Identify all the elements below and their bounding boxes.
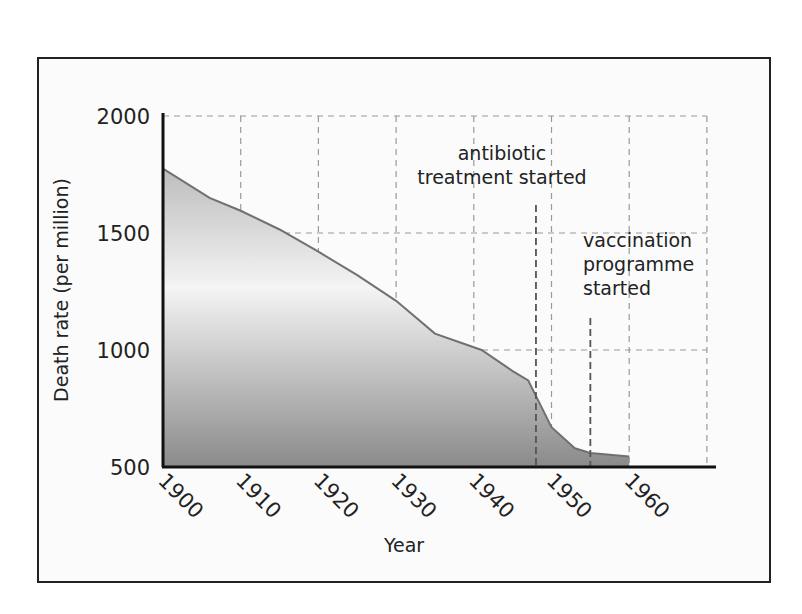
annotation-labels: antibiotictreatment startedvaccinationpr…: [417, 142, 694, 299]
x-tick-labels: 1900191019201930194019501960: [153, 469, 674, 524]
y-axis-title: Death rate (per million): [50, 178, 72, 402]
x-axis-title: Year: [383, 534, 424, 556]
x-tick-label: 1920: [309, 469, 364, 524]
x-tick-label: 1950: [542, 469, 597, 524]
y-tick-label: 2000: [97, 105, 150, 129]
annotation-label: antibiotic: [458, 142, 547, 164]
death-rate-chart: 200015001000500 190019101920193019401950…: [0, 0, 802, 614]
annotation-label: started: [583, 277, 651, 299]
x-tick-label: 1940: [464, 469, 519, 524]
annotation-label: programme: [583, 253, 694, 275]
y-tick-label: 1500: [97, 222, 150, 246]
annotation-label: vaccination: [583, 229, 692, 251]
death-rate-area: [163, 169, 629, 467]
y-tick-label: 1000: [97, 339, 150, 363]
annotation-label: treatment started: [417, 166, 586, 188]
x-tick-label: 1930: [387, 469, 442, 524]
x-tick-label: 1900: [153, 469, 208, 524]
x-tick-label: 1910: [231, 469, 286, 524]
y-tick-label: 500: [110, 456, 150, 480]
x-tick-label: 1960: [620, 469, 675, 524]
y-tick-labels: 200015001000500: [97, 105, 150, 480]
